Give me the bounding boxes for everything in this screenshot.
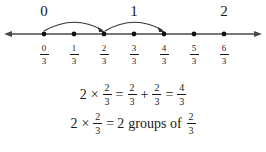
- jump-arc-1: [44, 22, 102, 31]
- equation-line-2: 2 × 2 3 = 2 groups of 2 3: [0, 111, 266, 136]
- tick-dot: [42, 32, 47, 37]
- whole-label-1: 1: [122, 4, 146, 19]
- tick-dot: [192, 32, 197, 37]
- fraction-bar: [152, 94, 161, 95]
- fraction-numerator: 2: [104, 82, 111, 93]
- fraction-denominator: 3: [153, 96, 160, 107]
- tick-label-denominator: 3: [153, 56, 175, 66]
- tick-label-numerator: 3: [123, 43, 145, 53]
- tick-label-denominator: 3: [183, 56, 205, 66]
- fraction-numerator: 4: [178, 82, 185, 93]
- fraction-bar: [220, 54, 229, 55]
- fraction-denominator: 3: [129, 96, 136, 107]
- fraction-bar: [70, 54, 79, 55]
- tick-label-denominator: 3: [213, 56, 235, 66]
- tick-label-denominator: 3: [33, 56, 55, 66]
- tick-label-5-3: 5 3: [183, 43, 205, 66]
- tick-label-3-3: 3 3: [123, 43, 145, 66]
- eq2-count: 2: [117, 116, 124, 132]
- tick-label-numerator: 5: [183, 43, 205, 53]
- axis-left-arrow-icon: [4, 31, 12, 37]
- equation-line-1: 2 × 2 3 = 2 3 + 2 3 = 4 3: [0, 82, 266, 107]
- tick-label-numerator: 0: [33, 43, 55, 53]
- fraction-denominator: 3: [94, 125, 101, 136]
- multiplication-sign-icon: ×: [81, 116, 89, 132]
- eq2-factor: 2: [70, 116, 77, 132]
- fraction-bar: [190, 54, 199, 55]
- eq1-fraction-a: 2 3: [103, 82, 112, 107]
- tick-label-6-3: 6 3: [213, 43, 235, 66]
- whole-label-0: 0: [32, 4, 56, 19]
- tick-dot: [162, 32, 167, 37]
- jump-arc-2: [105, 22, 162, 31]
- whole-label-2: 2: [212, 4, 236, 19]
- fraction-numerator: 2: [153, 82, 160, 93]
- tick-label-1-3: 1 3: [63, 43, 85, 66]
- equations-block: 2 × 2 3 = 2 3 + 2 3 = 4 3: [0, 78, 266, 152]
- tick-label-2-3: 2 3: [93, 43, 115, 66]
- eq1-fraction-c: 2 3: [152, 82, 161, 107]
- fraction-bar: [187, 123, 196, 124]
- tick-dot: [102, 32, 107, 37]
- eq1-equals-2: =: [165, 87, 173, 103]
- fraction-numerator: 2: [188, 111, 195, 122]
- tick-dot: [222, 32, 227, 37]
- tick-label-numerator: 6: [213, 43, 235, 53]
- tick-dot: [132, 32, 137, 37]
- eq1-fraction-result: 4 3: [177, 82, 186, 107]
- multiplication-sign-icon: ×: [91, 87, 99, 103]
- figure-root: 0 1 2 0 3 1 3 2 3 3 3 4 3 5: [0, 0, 266, 152]
- axis-right-arrow-icon: [254, 31, 262, 37]
- fraction-bar: [130, 54, 139, 55]
- tick-dot: [72, 32, 77, 37]
- tick-label-numerator: 4: [153, 43, 175, 53]
- tick-label-numerator: 2: [93, 43, 115, 53]
- plus-sign-icon: +: [141, 87, 149, 103]
- eq1-fraction-b: 2 3: [128, 82, 137, 107]
- eq2-equals: =: [106, 116, 114, 132]
- tick-label-0-3: 0 3: [33, 43, 55, 66]
- tick-label-numerator: 1: [63, 43, 85, 53]
- fraction-bar: [93, 123, 102, 124]
- eq2-fraction-b: 2 3: [187, 111, 196, 136]
- fraction-denominator: 3: [178, 96, 185, 107]
- fraction-denominator: 3: [104, 96, 111, 107]
- jump-arc-1-arrowhead-icon: [98, 27, 105, 32]
- tick-label-denominator: 3: [93, 56, 115, 66]
- fraction-bar: [40, 54, 49, 55]
- tick-label-denominator: 3: [123, 56, 145, 66]
- fraction-numerator: 2: [129, 82, 136, 93]
- tick-label-4-3: 4 3: [153, 43, 175, 66]
- number-line-diagram: 0 1 2 0 3 1 3 2 3 3 3 4 3 5: [0, 0, 266, 76]
- jump-arc-2-arrowhead-icon: [158, 27, 165, 32]
- tick-label-denominator: 3: [63, 56, 85, 66]
- fraction-numerator: 2: [94, 111, 101, 122]
- fraction-bar: [160, 54, 169, 55]
- eq2-words: groups of: [128, 116, 181, 132]
- fraction-denominator: 3: [188, 125, 195, 136]
- eq2-fraction-a: 2 3: [93, 111, 102, 136]
- eq1-factor: 2: [80, 87, 87, 103]
- fraction-bar: [100, 54, 109, 55]
- eq1-equals-1: =: [116, 87, 124, 103]
- fraction-bar: [103, 94, 112, 95]
- fraction-bar: [128, 94, 137, 95]
- fraction-bar: [177, 94, 186, 95]
